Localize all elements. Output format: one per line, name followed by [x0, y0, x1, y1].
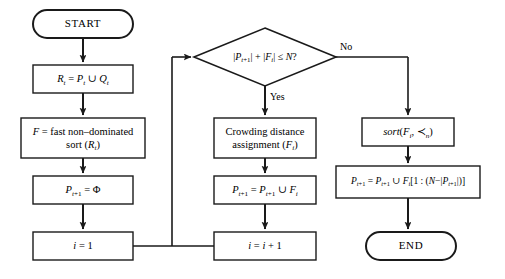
union-shape [33, 65, 133, 93]
end-shape [366, 232, 456, 260]
flowchart-canvas [0, 0, 505, 279]
decision-shape [194, 28, 336, 86]
sort-shape [21, 118, 145, 158]
init-pop-shape [33, 176, 133, 204]
flowchart-diagram: START Rt = Pt ∪ Qt F = fast non–dominate… [0, 0, 505, 279]
init-i-shape [33, 232, 133, 260]
accumulate-shape [214, 176, 316, 204]
sort-crowded-shape [362, 118, 454, 146]
crowding-shape [214, 118, 316, 158]
start-shape [33, 10, 133, 38]
increment-shape [214, 232, 316, 260]
fill-rest-shape [336, 166, 480, 198]
